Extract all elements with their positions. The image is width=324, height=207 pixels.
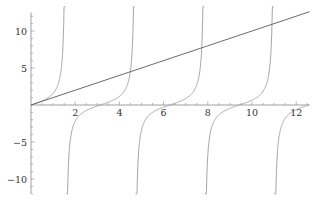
axes bbox=[31, 13, 309, 194]
tan-branch bbox=[135, 7, 204, 194]
chart-plot: 24681012−10−5510 bbox=[0, 0, 324, 207]
tan-branch bbox=[205, 7, 274, 194]
x-tick-label: 10 bbox=[246, 107, 258, 118]
tan-curve-series bbox=[31, 7, 309, 194]
x-tick-label: 6 bbox=[161, 107, 167, 118]
line-y-equals-x-series bbox=[31, 12, 309, 105]
tan-branch bbox=[66, 7, 135, 194]
tan-branch bbox=[274, 105, 309, 194]
y-tick-label: 5 bbox=[21, 63, 27, 74]
tan-branch bbox=[31, 7, 66, 105]
y-tick-label: −10 bbox=[7, 174, 27, 185]
x-tick-label: 12 bbox=[290, 107, 302, 118]
x-tick-label: 8 bbox=[205, 107, 211, 118]
x-tick-label: 2 bbox=[72, 107, 78, 118]
y-tick-label: −5 bbox=[13, 137, 27, 148]
x-tick-label: 4 bbox=[116, 107, 122, 118]
line-y-equals-x bbox=[31, 12, 309, 105]
y-tick-label: 10 bbox=[15, 26, 27, 37]
